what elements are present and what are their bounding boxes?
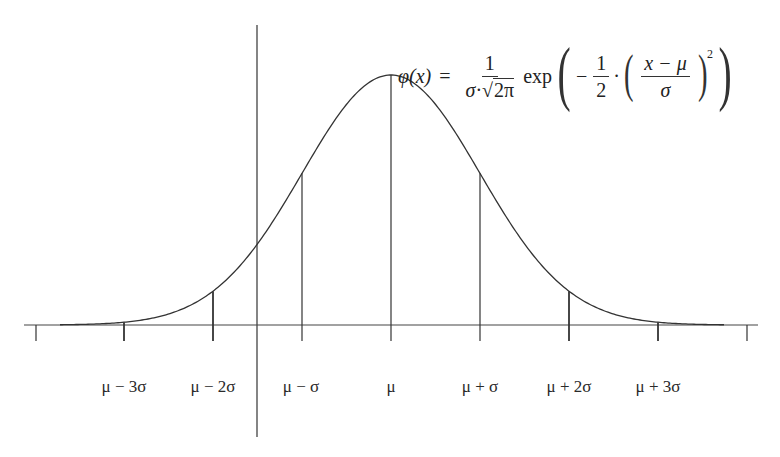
label-mu-minus-2sigma: μ − 2σ (191, 377, 236, 397)
label-mu-minus-sigma: μ − σ (283, 377, 319, 397)
coefficient-numerator: 1 (482, 52, 498, 77)
coefficient-denominator: σ·√2π (463, 77, 518, 101)
sqrt-sign: √ (482, 79, 493, 101)
z-fraction: x − μ σ (641, 52, 689, 101)
dot-operator-2: · (613, 65, 620, 88)
formula-equals: = (439, 65, 450, 88)
label-mu-plus-3sigma: μ + 3σ (636, 377, 681, 397)
outer-open-paren: ( (557, 37, 570, 109)
z-numerator: x − μ (641, 52, 689, 77)
coefficient-fraction: 1 σ·√2π (463, 52, 518, 101)
half-numerator: 1 (593, 52, 609, 77)
z-denominator: σ (658, 77, 674, 101)
half-fraction: 1 2 (593, 52, 609, 101)
sqrt-arg-text: 2π (494, 79, 514, 101)
inner-open-paren: ( (624, 48, 634, 100)
exp-function: exp (523, 65, 552, 88)
outer-close-paren: ) (718, 37, 731, 109)
sqrt-argument: 2π (493, 78, 514, 101)
formula-lhs: φ(x) (398, 65, 431, 88)
inner-close-paren: ) (698, 48, 708, 100)
label-mu-plus-sigma: μ + σ (462, 377, 498, 397)
label-mu-minus-3sigma: μ − 3σ (102, 377, 147, 397)
label-mu-plus-2sigma: μ + 2σ (547, 377, 592, 397)
minus-sign: − (576, 65, 587, 88)
exponent-2: 2 (707, 47, 713, 62)
label-mu: μ (386, 377, 395, 397)
half-denominator: 2 (593, 77, 609, 101)
density-formula: φ(x) = 1 σ·√2π exp ( − 1 2 · ( x − μ σ )… (398, 26, 737, 126)
sigma-symbol: σ (466, 79, 476, 101)
